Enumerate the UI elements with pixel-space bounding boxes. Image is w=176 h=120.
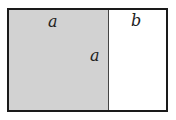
outer-rectangle xyxy=(7,8,168,112)
label-square-side-a: a xyxy=(90,48,100,64)
label-rect-top-b: b xyxy=(131,13,141,29)
label-square-top-a: a xyxy=(48,14,58,30)
